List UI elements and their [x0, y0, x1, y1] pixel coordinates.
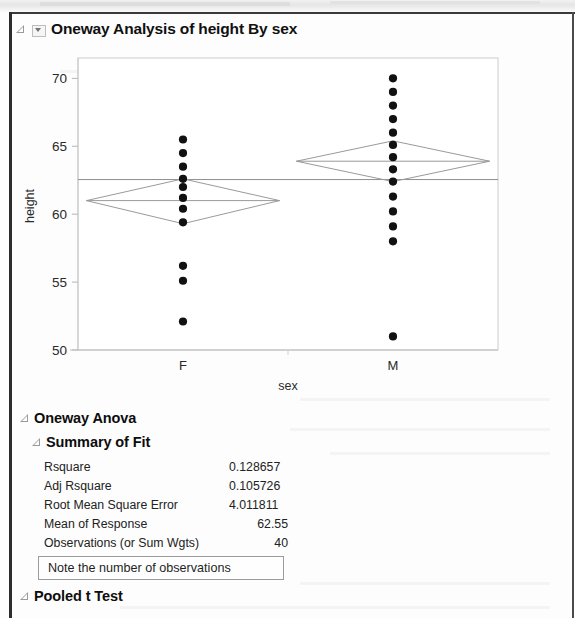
data-point[interactable] — [179, 194, 187, 202]
annotation-callout[interactable]: Note the number of observations — [38, 556, 284, 580]
y-axis-tick-label: 60 — [52, 207, 67, 222]
scan-artifact-streak-2 — [330, 1, 540, 4]
x-axis-tick-label: M — [388, 358, 399, 373]
data-point[interactable] — [179, 149, 187, 157]
disclosure-triangle-icon[interactable] — [32, 438, 41, 447]
scan-artifact-streak-1 — [40, 2, 290, 6]
x-axis-tick-label: F — [179, 358, 187, 373]
data-point[interactable] — [389, 74, 397, 82]
section-header-pooled-t-test[interactable]: Pooled t Test — [20, 588, 123, 604]
table-row: Rsquare0.128657 — [44, 460, 334, 479]
table-row: Mean of Response62.55 — [44, 517, 334, 536]
scan-artifact-streak-8 — [120, 606, 550, 609]
section-header-summary-of-fit[interactable]: Summary of Fit — [32, 434, 150, 450]
stat-label: Observations (or Sum Wgts) — [44, 536, 229, 550]
y-axis: 5055606570 — [52, 58, 78, 358]
data-point[interactable] — [389, 207, 397, 215]
scan-artifact-streak-5 — [290, 428, 550, 431]
data-point[interactable] — [389, 141, 397, 149]
data-point[interactable] — [179, 218, 187, 226]
data-point[interactable] — [389, 332, 397, 340]
table-row: Observations (or Sum Wgts)40 — [44, 536, 334, 555]
data-point[interactable] — [179, 277, 187, 285]
data-point[interactable] — [179, 175, 187, 183]
data-point[interactable] — [389, 237, 397, 245]
y-axis-tick-label: 70 — [52, 71, 67, 86]
oneway-analysis-chart[interactable]: 5055606570 FM height sex — [16, 46, 556, 396]
chart-canvas: 5055606570 FM height sex — [16, 46, 556, 396]
data-point[interactable] — [179, 163, 187, 171]
section-label-oneway-anova: Oneway Anova — [34, 410, 136, 426]
summary-of-fit-table: Rsquare0.128657Adj Rsquare0.105726Root M… — [44, 460, 334, 555]
data-point[interactable] — [389, 222, 397, 230]
data-point[interactable] — [389, 177, 397, 185]
data-point[interactable] — [179, 317, 187, 325]
data-point[interactable] — [179, 183, 187, 191]
disclosure-triangle-icon[interactable] — [20, 414, 29, 423]
jmp-report-window: Oneway Analysis of height By sex 5055606… — [0, 0, 575, 618]
data-point[interactable] — [389, 153, 397, 161]
chevron-down-icon[interactable] — [31, 23, 45, 36]
data-point[interactable] — [179, 205, 187, 213]
section-label-pooled-t-test: Pooled t Test — [34, 588, 123, 604]
y-axis-tick-label: 65 — [52, 139, 67, 154]
y-axis-tick-label: 55 — [52, 275, 67, 290]
annotation-text: Note the number of observations — [48, 561, 231, 575]
data-point[interactable] — [389, 192, 397, 200]
y-axis-title: height — [23, 188, 37, 223]
scan-artifact-streak-4 — [300, 398, 550, 401]
stat-value: 40 — [229, 536, 334, 550]
plot-frame — [78, 58, 498, 350]
disclosure-triangle-icon[interactable] — [20, 592, 29, 601]
report-title-row[interactable]: Oneway Analysis of height By sex — [16, 20, 297, 38]
window-border-top — [9, 12, 575, 14]
stat-label: Rsquare — [44, 460, 229, 474]
data-point[interactable] — [389, 165, 397, 173]
data-point[interactable] — [389, 129, 397, 137]
section-label-summary-of-fit: Summary of Fit — [46, 434, 150, 450]
scan-artifact-streak-7 — [300, 582, 550, 585]
stat-label: Root Mean Square Error — [44, 498, 229, 512]
stat-value: 0.128657 — [229, 460, 334, 474]
disclosure-triangle-icon[interactable] — [16, 25, 25, 34]
table-row: Root Mean Square Error4.011811 — [44, 498, 334, 517]
stat-label: Mean of Response — [44, 517, 229, 531]
window-border-right — [572, 12, 574, 618]
x-axis-title: sex — [278, 379, 298, 393]
stat-value: 0.105726 — [229, 479, 334, 493]
window-border-left — [9, 12, 12, 618]
stat-label: Adj Rsquare — [44, 479, 229, 493]
data-point[interactable] — [389, 88, 397, 96]
data-point[interactable] — [389, 101, 397, 109]
x-axis: FM — [70, 350, 498, 373]
scan-artifact-streak-6 — [330, 452, 550, 455]
y-axis-tick-label: 50 — [52, 343, 67, 358]
data-point[interactable] — [179, 262, 187, 270]
section-header-oneway-anova[interactable]: Oneway Anova — [20, 410, 136, 426]
data-point[interactable] — [389, 115, 397, 123]
table-row: Adj Rsquare0.105726 — [44, 479, 334, 498]
stat-value: 62.55 — [229, 517, 334, 531]
data-point[interactable] — [179, 135, 187, 143]
page-title: Oneway Analysis of height By sex — [51, 20, 297, 38]
stat-value: 4.011811 — [229, 498, 334, 512]
